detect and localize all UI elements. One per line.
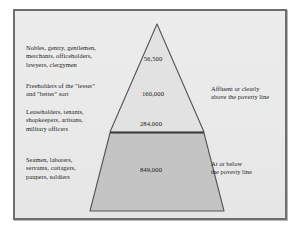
annotation-above-poverty-line: Affluent or clearly above the poverty li…: [211, 85, 291, 102]
tier-label-3: Leaseholders, tenants, shopkeepers, arti…: [26, 108, 122, 133]
tier-label-2: Freeholders of the "lesser" and "better"…: [26, 82, 122, 99]
pyramid-upper-section: [110, 24, 204, 132]
figure-canvas: 56,500 160,000 284,000 849,000 Nobles, g…: [15, 11, 285, 218]
tier-label-4: Seamen, laborers, servants, cottagers, p…: [26, 156, 122, 181]
annotation-below-poverty-line: At or below the poverty line: [211, 160, 291, 177]
tier-label-1: Nobles, gentry, gentlemen, merchants, of…: [26, 44, 122, 69]
screenshot-root: 56,500 160,000 284,000 849,000 Nobles, g…: [0, 0, 307, 236]
tier-value-1: 56,500: [123, 55, 183, 63]
tier-value-4: 849,000: [115, 166, 187, 174]
tier-value-3: 284,000: [117, 120, 185, 128]
figure-frame: 56,500 160,000 284,000 849,000 Nobles, g…: [13, 9, 287, 220]
tier-value-2: 160,000: [119, 90, 187, 98]
